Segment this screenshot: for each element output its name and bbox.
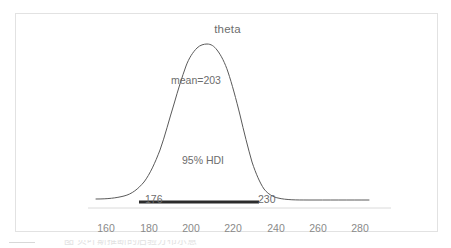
caption-text: 图 贝叶斯推断的后验分布示意 <box>64 240 197 247</box>
x-tick-label: 200 <box>182 222 200 234</box>
caption-rule <box>9 242 35 243</box>
mean-annotation: mean=203 <box>171 74 221 86</box>
plot-area: theta mean=203 95% HDI 176 230 160 180 2… <box>16 14 439 233</box>
density-curve <box>96 44 369 200</box>
x-tick-label: 280 <box>351 222 369 234</box>
bottom-cropped-caption: 图 贝叶斯推断的后验分布示意 <box>0 240 451 248</box>
x-tick-label: 160 <box>97 222 115 234</box>
screenshot-root: theta mean=203 95% HDI 176 230 160 180 2… <box>0 0 451 248</box>
posterior-distribution-plot <box>16 14 439 233</box>
x-tick-label: 240 <box>267 222 285 234</box>
x-tick-label: 260 <box>309 222 327 234</box>
figure-frame: theta mean=203 95% HDI 176 230 160 180 2… <box>15 13 438 232</box>
hdi-high-annotation: 230 <box>258 193 276 205</box>
hdi-low-annotation: 176 <box>145 193 163 205</box>
hdi-annotation: 95% HDI <box>182 154 224 166</box>
chart-title: theta <box>16 23 439 35</box>
x-tick-label: 180 <box>140 222 158 234</box>
x-tick-label: 220 <box>224 222 242 234</box>
